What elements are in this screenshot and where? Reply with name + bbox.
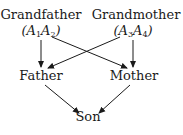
- allele-index: 2: [50, 30, 55, 39]
- node-mother: Mother: [110, 69, 159, 83]
- node-grandfather: Grandfather: [0, 8, 81, 22]
- node-son: Son: [75, 110, 100, 124]
- allele-letter: A: [41, 23, 50, 38]
- edge-mother-son: [99, 85, 130, 113]
- allele-index: 4: [142, 30, 147, 39]
- node-grandmother: Grandmother: [92, 8, 181, 22]
- allele-letter: A: [133, 23, 142, 38]
- genotype-grandfather: (A1A2): [21, 24, 60, 42]
- genotype-grandmother: (A3A4): [113, 24, 152, 42]
- node-father: Father: [19, 69, 62, 83]
- edge-father-son: [45, 85, 79, 113]
